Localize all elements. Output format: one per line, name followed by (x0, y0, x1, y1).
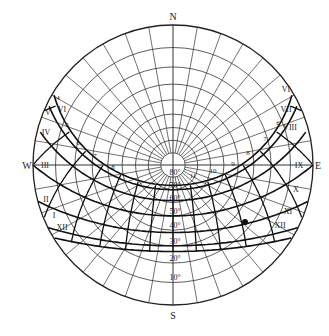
south-label: S (170, 310, 176, 321)
hour-number-left: 8 (111, 163, 115, 171)
hour-label-right: VIII (283, 123, 297, 132)
hour-line (100, 175, 121, 246)
hour-number-right: 9 (231, 160, 235, 168)
hour-number-right: 11 (190, 172, 197, 180)
altitude-label: 20° (169, 254, 180, 263)
hour-number-left: 4 (56, 94, 60, 102)
east-label: E (315, 160, 321, 171)
chart-labels: NSEW10°20°30°40°50°60°70°80°VVIIVIIIIIIX… (22, 11, 321, 321)
hour-label-right: X (293, 185, 299, 194)
hour-number-left: 5 (65, 121, 69, 129)
altitude-label: 60° (169, 194, 180, 203)
hour-label-right: XII (274, 221, 285, 230)
hour-label-right: IX (295, 161, 304, 170)
hour-label-left: XII (56, 223, 67, 232)
hour-label-left: VI (58, 105, 67, 114)
hour-label-right: XI (284, 207, 293, 216)
hour-number-right: 8 (246, 149, 250, 157)
sun-path-diagram: NSEW10°20°30°40°50°60°70°80°VVIIVIIIIIIX… (0, 0, 329, 336)
hour-number-right: 10 (210, 167, 218, 175)
altitude-label: 50° (169, 207, 180, 216)
hour-label-left: V (45, 108, 51, 117)
hour-number-right: 7 (263, 135, 267, 143)
west-label: W (22, 160, 32, 171)
hour-number-left: 7 (93, 152, 97, 160)
marker-dot (242, 219, 248, 225)
azimuth-line (66, 75, 164, 157)
hour-number-left: 6 (76, 139, 80, 147)
altitude-label: 10° (169, 273, 180, 282)
hour-label-right: VII (280, 105, 291, 114)
azimuth-line (182, 75, 280, 157)
hour-label-left: IV (42, 128, 51, 137)
azimuth-line (181, 58, 263, 156)
hour-number-right: 6 (276, 119, 280, 127)
hour-label-left: II (43, 195, 49, 204)
north-label: N (169, 11, 176, 22)
hour-label-left: I (53, 211, 56, 220)
hour-line (225, 175, 246, 246)
altitude-label: 70° (169, 181, 180, 190)
sun-path-chart: NSEW10°20°30°40°50°60°70°80°VVIIVIIIIIIX… (0, 0, 329, 336)
hour-label-right: VI (282, 85, 291, 94)
altitude-label: 40° (169, 221, 180, 230)
hour-label-left: III (41, 161, 49, 170)
altitude-label: 30° (169, 237, 180, 246)
azimuth-line (83, 58, 165, 156)
altitude-label: 80° (169, 168, 180, 177)
